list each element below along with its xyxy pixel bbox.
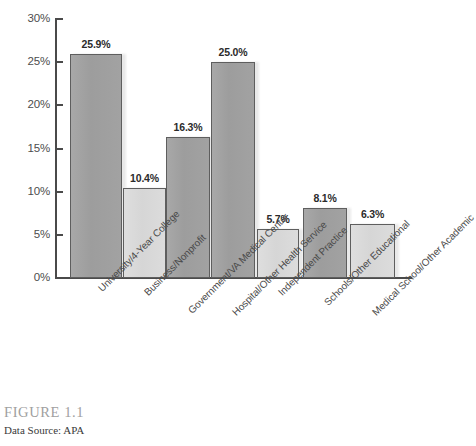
figure-number: FIGURE 1.1 [4,404,304,421]
bar-value-label: 25.9% [64,39,128,50]
bar-value-label: 6.3% [344,209,401,220]
bar-value-label: 10.4% [117,173,172,184]
bar-value-label: 8.1% [297,193,353,204]
bar[interactable] [70,54,122,278]
figure-caption: FIGURE 1.1 Data Source: APA [4,404,304,436]
bar-chart: 30%25%20%15%10%5%0% 25.9%10.4%16.3%25.0%… [0,0,428,300]
bar-value-label: 25.0% [205,47,261,58]
bar-value-label: 16.3% [160,122,216,133]
bars-layer: 25.9%10.4%16.3%25.0%5.7%8.1%6.3% [0,0,428,278]
x-axis-category-labels: University/4-Year CollegeBusiness/Nonpro… [0,278,428,398]
data-source-label: Data Source: APA [4,424,304,437]
